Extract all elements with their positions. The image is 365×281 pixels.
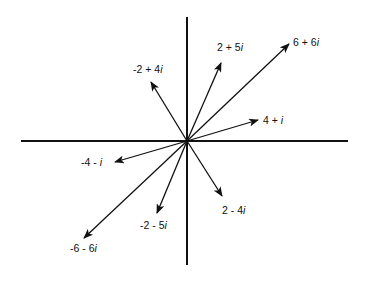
vector-label-6p6i: 6 + 6i [293, 36, 320, 48]
vector-arrow-2p5i [187, 63, 221, 141]
vector-label-4p1i: 4 + i [263, 114, 284, 126]
vector-arrow-m2m5i [157, 141, 187, 213]
complex-plane-diagram: 6 + 6i2 + 5i-2 + 4i4 + i-4 - i2 - 4i-2 -… [0, 0, 365, 281]
vector-label-m4m1i: -4 - i [81, 156, 103, 168]
vector-arrow-2m4i [187, 141, 222, 196]
vector-arrow-m2p4i [151, 82, 187, 141]
vector-label-m2p4i: -2 + 4i [133, 63, 163, 75]
vector-label-m2m5i: -2 - 5i [140, 219, 168, 231]
label-group: 6 + 6i2 + 5i-2 + 4i4 + i-4 - i2 - 4i-2 -… [70, 36, 320, 254]
vector-label-m6m6i: -6 - 6i [70, 242, 98, 254]
vector-label-2p5i: 2 + 5i [217, 41, 244, 53]
vector-label-2m4i: 2 - 4i [222, 204, 246, 216]
